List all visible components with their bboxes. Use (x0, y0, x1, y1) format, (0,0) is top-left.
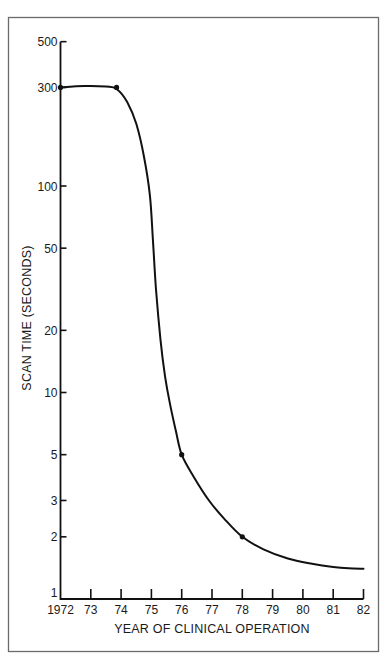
x-tick-label: 1972 (47, 603, 74, 617)
y-tick-label: 300 (37, 81, 57, 95)
scan-time-curve (61, 86, 364, 569)
x-tick-label: 75 (145, 603, 159, 617)
y-tick-label: 5 (51, 448, 58, 462)
y-axis-ticks: 1235102050100300500 (37, 35, 66, 600)
data-point (240, 534, 245, 539)
figure-frame (9, 18, 379, 652)
x-tick-label: 76 (175, 603, 189, 617)
data-point (179, 452, 184, 457)
x-tick-label: 73 (84, 603, 98, 617)
scan-time-chart: 1235102050100300500 19727374757677787980… (0, 0, 389, 657)
y-tick-label: 100 (37, 180, 57, 194)
x-tick-label: 77 (205, 603, 219, 617)
axis-lines (61, 42, 364, 599)
y-tick-label: 20 (44, 324, 58, 338)
y-tick-label: 3 (51, 494, 58, 508)
x-axis-ticks: 197273747576777879808182 (47, 589, 370, 617)
x-tick-label: 78 (236, 603, 250, 617)
x-tick-label: 80 (296, 603, 310, 617)
y-tick-label: 1 (51, 586, 58, 600)
x-tick-label: 74 (114, 603, 128, 617)
data-point (114, 85, 119, 90)
y-tick-label: 50 (44, 242, 58, 256)
data-markers (58, 85, 245, 540)
y-tick-label: 10 (44, 386, 58, 400)
y-tick-label: 500 (37, 35, 57, 49)
x-tick-label: 81 (327, 603, 341, 617)
data-point (58, 85, 63, 90)
axes (61, 42, 364, 599)
y-tick-label: 2 (51, 530, 58, 544)
x-tick-label: 79 (266, 603, 280, 617)
y-axis-label: SCAN TIME (SECONDS) (20, 245, 34, 390)
x-axis-label: YEAR OF CLINICAL OPERATION (114, 622, 310, 636)
x-tick-label: 82 (357, 603, 371, 617)
